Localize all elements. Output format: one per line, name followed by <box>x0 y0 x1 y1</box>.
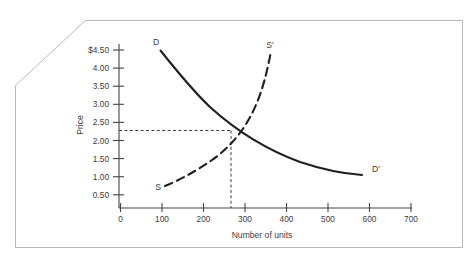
y-tick-label-050: 0.50 <box>93 190 110 200</box>
y-tick-label-450: $4.50 <box>88 45 109 55</box>
demand-end-label: D' <box>372 164 380 174</box>
y-tick-label-350: 3.50 <box>93 81 110 91</box>
demand-start-label: D <box>153 37 159 47</box>
x-tick-label-100: 100 <box>155 214 169 224</box>
y-tick-label-100: 1.00 <box>93 172 110 182</box>
figure-container: $4.50 4.00 3.50 3.00 2.50 2.00 1.50 1.00… <box>0 0 476 271</box>
x-tick-label-0: 0 <box>118 214 123 224</box>
x-axis-title: Number of units <box>232 230 293 240</box>
x-tick-label-700: 700 <box>404 214 418 224</box>
demand-curve <box>161 51 363 176</box>
y-axis-title: Price <box>75 115 85 135</box>
y-tick-label-150: 1.50 <box>93 154 110 164</box>
y-tick-label-300: 3.00 <box>93 99 110 109</box>
y-tick-label-400: 4.00 <box>93 63 110 73</box>
supply-end-label: S' <box>266 40 274 50</box>
x-tick-label-200: 200 <box>197 214 211 224</box>
y-tick-label-200: 2.00 <box>93 136 110 146</box>
x-tick-label-300: 300 <box>238 214 252 224</box>
x-tick-label-400: 400 <box>280 214 294 224</box>
x-tick-label-500: 500 <box>321 214 335 224</box>
supply-demand-chart: $4.50 4.00 3.50 3.00 2.50 2.00 1.50 1.00… <box>0 0 476 271</box>
x-tick-label-600: 600 <box>363 214 377 224</box>
supply-start-label: S <box>155 182 161 192</box>
y-tick-label-250: 2.50 <box>93 117 110 127</box>
